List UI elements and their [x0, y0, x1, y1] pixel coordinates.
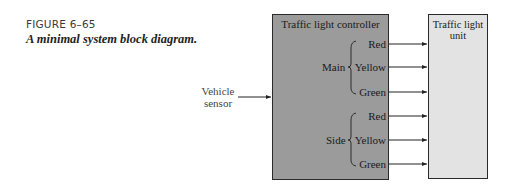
side-brace: [348, 113, 356, 166]
wires-layer: [0, 0, 513, 190]
main-brace: [348, 41, 356, 94]
